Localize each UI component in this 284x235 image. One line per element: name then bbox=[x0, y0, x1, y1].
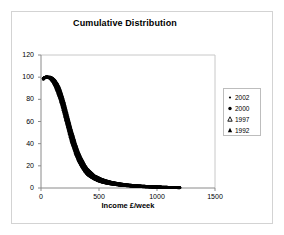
data-series-group bbox=[42, 76, 181, 189]
chart-container: Cumulative Distribution 020406080100120 … bbox=[0, 0, 284, 235]
y-tick-label: 100 bbox=[12, 73, 34, 80]
legend-item-1992[interactable]: 1992 bbox=[226, 125, 260, 136]
legend-item-1997[interactable]: 1997 bbox=[226, 114, 260, 125]
x-axis-title: Income £/week bbox=[55, 201, 201, 210]
y-tick-label: 40 bbox=[12, 140, 34, 147]
dot-small-icon bbox=[226, 93, 234, 102]
y-tick-label: 120 bbox=[12, 51, 34, 58]
triangle-icon bbox=[226, 115, 234, 124]
y-tick-label: 0 bbox=[12, 184, 34, 191]
legend-label: 2002 bbox=[235, 93, 249, 102]
dot-icon bbox=[226, 104, 234, 113]
legend-item-2002[interactable]: 2002 bbox=[226, 92, 260, 103]
series-2000 bbox=[42, 76, 181, 189]
x-tick-label: 1000 bbox=[144, 193, 170, 200]
triangle-filled-icon bbox=[226, 126, 234, 135]
legend-item-2000[interactable]: 2000 bbox=[226, 103, 260, 114]
y-tick-label: 20 bbox=[12, 162, 34, 169]
legend-label: 1992 bbox=[235, 126, 249, 135]
series-2002 bbox=[42, 76, 181, 189]
legend-label: 2000 bbox=[235, 104, 249, 113]
x-tick-label: 0 bbox=[28, 193, 54, 200]
y-tick-label: 80 bbox=[12, 95, 34, 102]
y-tick-label: 60 bbox=[12, 118, 34, 125]
chart-legend: 2002200019971992 bbox=[223, 88, 261, 136]
x-tick-label: 500 bbox=[86, 193, 112, 200]
series-1997 bbox=[42, 76, 181, 189]
series-1992 bbox=[42, 76, 181, 189]
legend-label: 1997 bbox=[235, 115, 249, 124]
x-tick-label: 1500 bbox=[202, 193, 228, 200]
